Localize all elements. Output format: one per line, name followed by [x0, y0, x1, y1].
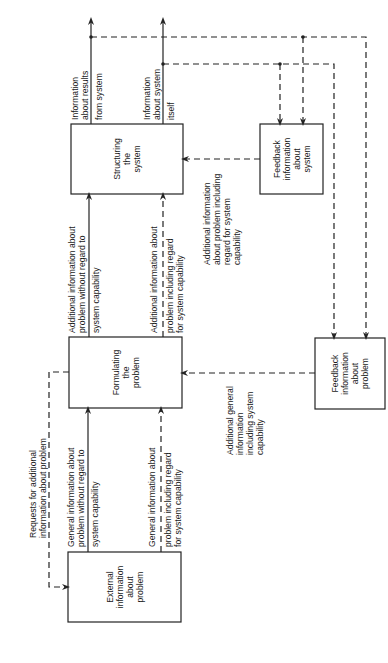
svg-text:including system: including system [245, 391, 255, 455]
svg-text:about: about [125, 576, 135, 598]
svg-text:information: information [340, 352, 350, 395]
svg-text:External: External [105, 571, 115, 603]
svg-text:about results: about results [80, 71, 90, 120]
svg-text:about: about [350, 362, 360, 384]
svg-text:information: information [282, 138, 292, 181]
add-info-without-label: Additional information about problem wit… [67, 226, 101, 333]
svg-text:Additional information: Additional information [202, 182, 212, 265]
svg-text:information about problem: information about problem [38, 438, 48, 538]
svg-text:Requests for additional: Requests for additional [28, 450, 38, 538]
svg-text:itself: itself [166, 102, 176, 120]
svg-text:problem without regard to: problem without regard to [76, 449, 86, 547]
svg-text:about system: about system [152, 69, 162, 120]
svg-text:Additional information about: Additional information about [67, 226, 77, 333]
system-output-label: Information about system itself [142, 69, 176, 120]
svg-text:problem including regard: problem including regard [163, 452, 173, 547]
svg-text:the: the [122, 153, 132, 165]
svg-text:the: the [121, 366, 131, 378]
svg-text:information: information [115, 566, 125, 609]
svg-text:from system: from system [94, 73, 104, 120]
add-info-including-label: Additional information about problem inc… [149, 226, 185, 333]
information-flow-diagram: Structuring the system Feedback informat… [0, 0, 388, 663]
svg-text:Feedback: Feedback [272, 139, 282, 177]
svg-text:Feedback: Feedback [330, 354, 340, 392]
svg-text:problem: problem [131, 357, 141, 388]
svg-text:Information: Information [70, 77, 80, 120]
svg-text:problem: problem [135, 571, 145, 602]
svg-text:Additional information about: Additional information about [149, 226, 159, 333]
svg-text:problem including regard: problem including regard [165, 238, 175, 333]
svg-text:about: about [292, 148, 302, 170]
gen-info-without-label: General information about problem withou… [66, 447, 100, 547]
svg-text:regard for system: regard for system [222, 198, 232, 265]
svg-text:problem without regard to: problem without regard to [77, 235, 87, 333]
svg-text:Formulating: Formulating [111, 350, 121, 396]
svg-text:information: information [235, 412, 245, 455]
svg-text:Structuring: Structuring [112, 138, 122, 180]
svg-text:General information about: General information about [66, 447, 76, 547]
svg-text:for system capability: for system capability [173, 468, 183, 547]
svg-text:system: system [302, 145, 312, 172]
svg-text:for system capability: for system capability [175, 254, 185, 333]
svg-text:problem: problem [360, 358, 370, 389]
svg-text:capability: capability [255, 418, 265, 455]
svg-text:General information about: General information about [147, 447, 157, 547]
svg-text:Information: Information [142, 77, 152, 120]
svg-text:Additional general: Additional general [225, 386, 235, 455]
svg-text:system capability: system capability [90, 481, 100, 547]
svg-text:capability: capability [232, 228, 242, 265]
feedback-to-formulating-label: Additional general information including… [225, 386, 265, 455]
feedback-to-structuring-label: Additional information about problem inc… [202, 174, 242, 265]
results-output-label: Information about results from system [70, 71, 104, 120]
svg-text:about problem including: about problem including [212, 174, 222, 265]
svg-text:system capability: system capability [91, 267, 101, 333]
system-feedback-loop [163, 64, 334, 336]
svg-text:system: system [132, 145, 142, 172]
gen-info-including-label: General information about problem includ… [147, 447, 183, 547]
requests-label: Requests for additional information abou… [28, 438, 48, 538]
